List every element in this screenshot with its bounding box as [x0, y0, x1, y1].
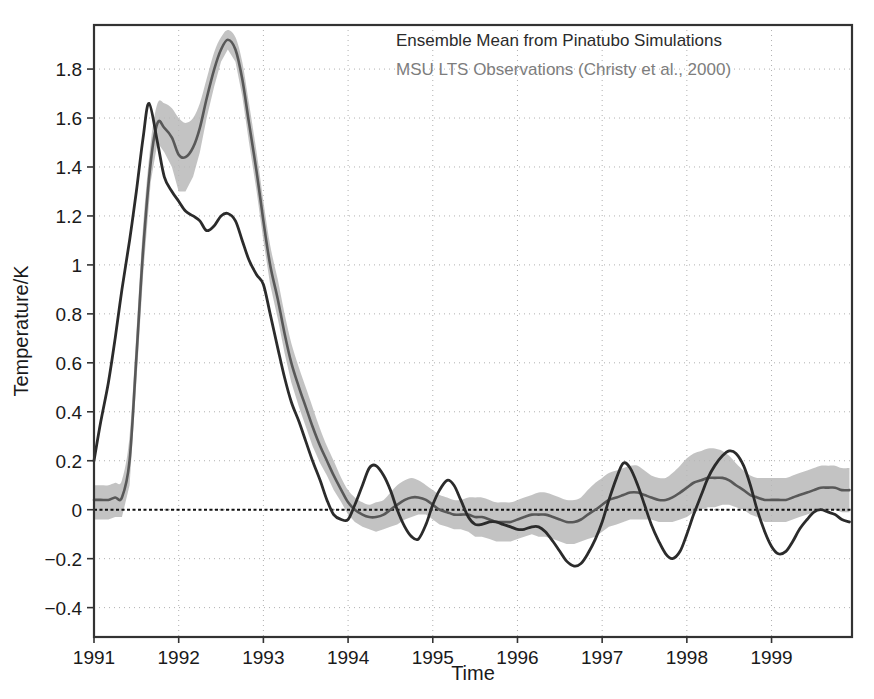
y-tick-label: 0 [71, 500, 82, 521]
y-tick-label: 0.2 [56, 451, 82, 472]
y-tick-label: 1.8 [56, 59, 82, 80]
y-tick-label: 1.4 [56, 157, 83, 178]
y-tick-label: 1.2 [56, 206, 82, 227]
y-tick-label: −0.4 [44, 598, 82, 619]
legend-label-observations: MSU LTS Observations (Christy et al., 20… [396, 60, 731, 79]
y-tick-label: 0.8 [56, 304, 82, 325]
x-tick-label: 1992 [158, 647, 200, 668]
chart-background [0, 0, 874, 699]
y-tick-label: 0.4 [56, 402, 83, 423]
x-tick-label: 1998 [666, 647, 708, 668]
x-tick-label: 1993 [242, 647, 284, 668]
x-tick-label: 1999 [750, 647, 792, 668]
y-tick-label: 1 [71, 255, 82, 276]
x-tick-label: 1994 [327, 647, 370, 668]
y-axis-title: Temperature/K [10, 265, 32, 397]
x-tick-label: 1997 [581, 647, 623, 668]
x-tick-label: 1991 [73, 647, 115, 668]
x-tick-label: 1996 [496, 647, 538, 668]
x-tick-label: 1995 [412, 647, 454, 668]
y-tick-label: 1.6 [56, 108, 82, 129]
x-axis-title: Time [451, 662, 495, 684]
figure-container: 199119921993199419951996199719981999 −0.… [0, 0, 874, 699]
temperature-anomaly-chart: 199119921993199419951996199719981999 −0.… [0, 0, 874, 699]
y-tick-label: 0.6 [56, 353, 82, 374]
legend-label-ensemble-mean: Ensemble Mean from Pinatubo Simulations [396, 31, 722, 50]
y-tick-label: −0.2 [44, 549, 82, 570]
